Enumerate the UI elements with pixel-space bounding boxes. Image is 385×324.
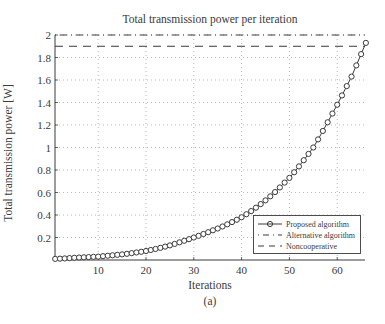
data-point-marker <box>363 40 368 45</box>
data-point-marker <box>292 170 297 175</box>
data-point-marker <box>277 185 282 190</box>
data-point-marker <box>320 128 325 133</box>
data-point-marker <box>282 180 287 185</box>
data-point-marker <box>253 205 258 210</box>
data-point-marker <box>330 111 335 116</box>
y-tick-label: 1.8 <box>37 52 51 64</box>
data-point-marker <box>239 215 244 220</box>
data-point-marker <box>306 151 311 156</box>
y-tick-label: 0.2 <box>37 232 51 244</box>
data-point-marker <box>258 201 263 206</box>
legend-label-alternative: Alternative algorithm <box>286 231 356 240</box>
chart-title: Total transmission power per iteration <box>123 13 298 26</box>
data-point-marker <box>287 175 292 180</box>
data-point-marker <box>335 102 340 107</box>
y-tick-label: 2 <box>46 29 52 41</box>
data-point-marker <box>325 120 330 125</box>
data-point-marker <box>263 198 268 203</box>
data-point-marker <box>296 164 301 169</box>
y-tick-label: 1 <box>46 142 52 154</box>
y-tick-label: 0.8 <box>37 164 51 176</box>
y-axis-label: Total transmission power [W] <box>2 84 15 221</box>
data-point-marker <box>339 93 344 98</box>
data-point-marker <box>301 158 306 163</box>
data-point-marker <box>315 137 320 142</box>
y-tick-label: 1.4 <box>37 97 51 109</box>
y-tick-label: 1.2 <box>37 119 51 131</box>
chart: Total transmission power per iteration 1… <box>0 0 385 324</box>
y-tick-label: 0.6 <box>37 187 51 199</box>
data-point-marker <box>249 208 254 213</box>
legend-label-noncooperative: Noncooperative <box>286 242 338 251</box>
y-tick-label: 0.4 <box>37 209 51 221</box>
figure-caption: (a) <box>204 295 217 308</box>
x-tick-label: 20 <box>141 264 153 276</box>
data-point-marker <box>268 194 273 199</box>
data-point-marker <box>359 52 364 57</box>
data-point-marker <box>344 83 349 88</box>
x-axis-label: Iterations <box>188 279 232 291</box>
x-tick-label: 40 <box>236 264 248 276</box>
data-point-marker <box>311 145 316 150</box>
data-point-marker <box>354 63 359 68</box>
x-tick-label: 30 <box>188 264 200 276</box>
data-point-marker <box>349 74 354 79</box>
y-tick-label: 1.6 <box>37 74 51 86</box>
x-tick-label: 10 <box>93 264 105 276</box>
legend: Proposed algorithm Alternative algorithm… <box>254 216 361 254</box>
x-tick-label: 60 <box>332 264 344 276</box>
data-point-marker <box>272 189 277 194</box>
x-tick-label: 50 <box>284 264 296 276</box>
legend-label-proposed: Proposed algorithm <box>286 220 350 229</box>
data-point-marker <box>244 212 249 217</box>
